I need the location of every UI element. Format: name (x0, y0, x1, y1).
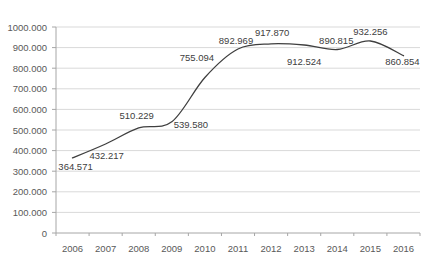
y-tick-label: 900.000 (13, 42, 47, 53)
data-label: 860.854 (385, 56, 419, 67)
data-label: 510.229 (120, 110, 154, 121)
data-label: 432.217 (89, 150, 123, 161)
line-chart: 0100.000200.000300.000400.000500.000600.… (0, 0, 428, 263)
y-tick-label: 100.000 (13, 207, 47, 218)
data-label: 932.256 (353, 26, 387, 37)
data-label: 364.571 (58, 161, 92, 172)
x-tick-label: 2007 (95, 243, 116, 254)
data-label: 539.580 (174, 119, 208, 130)
y-tick-label: 1000.000 (7, 22, 47, 33)
x-tick-label: 2015 (360, 243, 381, 254)
y-tick-label: 200.000 (13, 186, 47, 197)
y-tick-label: 400.000 (13, 145, 47, 156)
x-tick-label: 2009 (161, 243, 182, 254)
y-tick-label: 300.000 (13, 166, 47, 177)
data-line (73, 41, 404, 158)
x-tick-label: 2006 (62, 243, 83, 254)
x-tick-label: 2016 (393, 243, 414, 254)
x-tick-label: 2010 (194, 243, 215, 254)
data-label: 892.969 (219, 35, 253, 46)
y-tick-label: 800.000 (13, 63, 47, 74)
y-tick-label: 600.000 (13, 104, 47, 115)
data-label: 755.094 (180, 52, 214, 63)
y-tick-label: 700.000 (13, 83, 47, 94)
y-tick-label: 0 (42, 228, 47, 239)
x-tick-label: 2014 (327, 243, 348, 254)
data-label: 890.815 (319, 35, 353, 46)
x-tick-label: 2011 (228, 243, 248, 254)
x-tick-label: 2008 (128, 243, 149, 254)
data-label: 912.524 (287, 56, 321, 67)
chart-svg: 0100.000200.000300.000400.000500.000600.… (0, 0, 428, 263)
x-tick-label: 2012 (261, 243, 282, 254)
y-tick-label: 500.000 (13, 125, 47, 136)
data-label: 917.870 (255, 27, 289, 38)
x-tick-label: 2013 (294, 243, 315, 254)
